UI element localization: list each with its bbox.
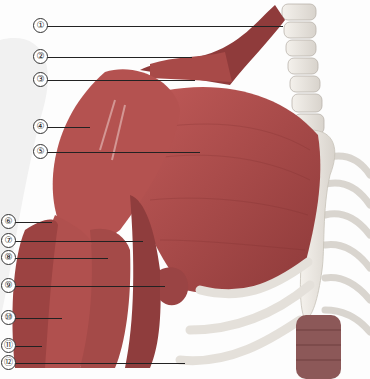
marker-1: ① xyxy=(33,18,48,33)
marker-3: ③ xyxy=(33,72,48,87)
leader-line-5 xyxy=(46,152,200,153)
leader-line-1 xyxy=(46,26,283,27)
marker-11: ⑪ xyxy=(1,338,16,353)
leader-line-4 xyxy=(46,127,90,128)
marker-6: ⑥ xyxy=(1,214,16,229)
leader-line-7 xyxy=(14,241,143,242)
leader-line-8 xyxy=(14,258,108,259)
anatomy-figure: ① ② ③ ④ ⑤ ⑥ ⑦ ⑧ ⑨ ⑩ ⑪ ⑫ xyxy=(0,0,370,379)
leader-line-6 xyxy=(14,222,52,223)
leader-line-10 xyxy=(14,318,62,319)
marker-12: ⑫ xyxy=(1,355,16,370)
marker-8: ⑧ xyxy=(1,250,16,265)
marker-7: ⑦ xyxy=(1,233,16,248)
leader-line-9 xyxy=(14,286,165,287)
leader-line-12 xyxy=(14,363,185,364)
leader-line-2 xyxy=(46,57,192,58)
marker-2: ② xyxy=(33,49,48,64)
marker-5: ⑤ xyxy=(33,144,48,159)
marker-10: ⑩ xyxy=(1,310,16,325)
marker-4: ④ xyxy=(33,119,48,134)
leader-line-11 xyxy=(14,346,42,347)
marker-9: ⑨ xyxy=(1,278,16,293)
leader-line-3 xyxy=(46,80,195,81)
